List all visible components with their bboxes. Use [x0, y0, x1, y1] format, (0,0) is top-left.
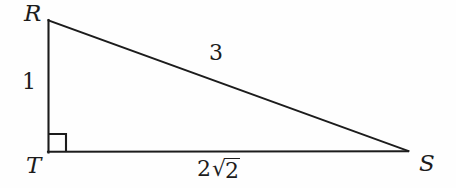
side-horizontal-leg-TS — [48, 151, 408, 152]
side-length-label-hypotenuse: 3 — [209, 42, 223, 64]
radicand-value: 2 — [225, 158, 240, 182]
radical-coefficient: 2 — [197, 158, 211, 180]
vertex-label-R: R — [24, 2, 41, 25]
radical-sign-icon: √ — [212, 158, 226, 182]
side-hypotenuse-RS — [49, 21, 409, 152]
vertex-label-T: T — [26, 154, 41, 177]
vertex-label-S: S — [419, 152, 435, 175]
right-angle-marker — [49, 134, 67, 152]
side-length-label-horizontal-leg: 2 √ 2 — [197, 158, 240, 182]
radical-group: √ 2 — [212, 158, 240, 182]
side-length-label-vertical-leg: 1 — [22, 71, 36, 93]
radical-expression: 2 √ 2 — [197, 158, 240, 182]
geometry-figure: R T S 1 3 2 √ 2 — [0, 0, 456, 188]
